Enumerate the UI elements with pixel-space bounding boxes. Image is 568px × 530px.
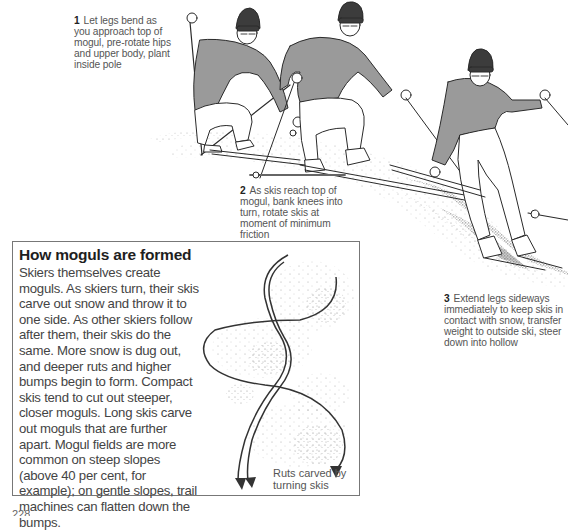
step-number: 3 — [444, 293, 450, 304]
skier-3 — [390, 49, 568, 270]
caption-step-2: 2As skis reach top of mogul, bank knees … — [240, 185, 350, 240]
step-text: Extend legs sideways immediately to keep… — [444, 293, 563, 348]
step-number: 1 — [74, 15, 80, 26]
step-text: As skis reach top of mogul, bank knees i… — [240, 185, 343, 240]
caption-step-3: 3Extend legs sideways immediately to kee… — [444, 293, 564, 348]
diagram-label: Ruts carved by turning skis — [273, 467, 353, 491]
sidebar-box-body: Skiers themselves create moguls. As skie… — [19, 265, 199, 530]
page-number: 228 — [12, 508, 30, 516]
sidebar-box-title: How moguls are formed — [19, 246, 191, 264]
step-number: 2 — [240, 185, 246, 196]
step-text: Let legs bend as you approach top of mog… — [74, 15, 171, 70]
caption-step-1: 1Let legs bend as you approach top of mo… — [74, 15, 174, 70]
